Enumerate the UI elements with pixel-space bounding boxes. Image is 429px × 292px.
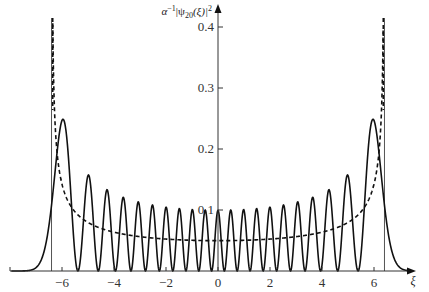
y-tick-label: 0.4 [198,19,215,34]
y-tick-label: 0.2 [198,141,214,156]
y-tick-label: 0.1 [198,202,214,217]
x-tick-label: 4 [319,275,326,290]
x-axis-title: ξ [410,274,416,288]
y-tick-label: 0.3 [198,80,214,95]
chart-canvas: −6−4−20246 0.10.20.30.4 ξ α−1|ψ20(ξ)|2 [0,0,429,292]
x-tick-label: 6 [371,275,378,290]
x-axis: −6−4−20246 [10,267,416,290]
x-tick-label: −2 [159,275,173,290]
y-axis: 0.10.20.30.4 [198,4,223,271]
y-axis-title: α−1|ψ20(ξ)|2 [162,4,212,20]
x-tick-label: 2 [267,275,274,290]
x-tick-label: −6 [55,275,69,290]
x-tick-label: −4 [107,275,121,290]
y-axis-arrow-icon [215,4,222,13]
x-tick-label: 0 [215,275,222,290]
